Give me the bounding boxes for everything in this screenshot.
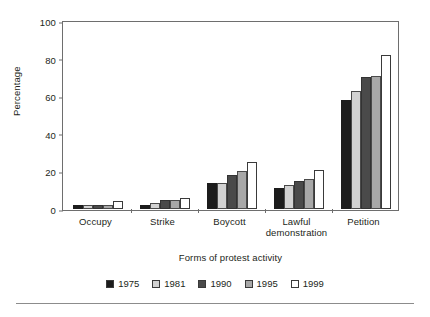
footer-divider	[16, 303, 414, 304]
x-axis-title: Forms of protest activity	[62, 252, 399, 263]
legend-label: 1990	[210, 278, 231, 289]
x-tick-label-line: Strike	[129, 216, 196, 227]
y-axis-title: Percentage	[11, 66, 22, 116]
bar-group	[131, 23, 198, 209]
bar	[351, 91, 361, 209]
bar	[304, 179, 314, 209]
y-tick-label: 20	[45, 167, 63, 178]
bar	[160, 200, 170, 209]
legend-item[interactable]: 1999	[291, 278, 324, 289]
bar	[247, 162, 257, 209]
y-tick-label: 40	[45, 129, 63, 140]
bar	[227, 175, 237, 209]
bar	[150, 203, 160, 209]
legend-swatch-icon	[291, 280, 299, 288]
bar	[207, 183, 217, 209]
x-tick-label-line: Boycott	[196, 216, 263, 227]
bar	[170, 200, 180, 209]
legend-swatch-icon	[198, 280, 206, 288]
bar	[371, 76, 381, 209]
bar	[180, 198, 190, 209]
bar	[73, 205, 83, 209]
bar	[237, 171, 247, 209]
legend-label: 1999	[303, 278, 324, 289]
bar	[103, 205, 113, 209]
x-tick-label-line: demonstration	[263, 227, 330, 238]
bar-groups	[64, 23, 397, 209]
bar	[294, 181, 304, 209]
x-tick-label-line: Petition	[330, 216, 397, 227]
bar	[83, 205, 93, 209]
bar	[274, 188, 284, 209]
bar	[284, 185, 294, 209]
bar-group	[64, 23, 131, 209]
bar	[341, 100, 351, 209]
bar-group	[265, 23, 332, 209]
x-axis-separator-tick	[265, 209, 266, 213]
x-axis-separator-tick	[198, 209, 199, 213]
y-tick-label: 80	[45, 54, 63, 65]
legend-swatch-icon	[245, 280, 253, 288]
x-tick-label-line: Lawful	[263, 216, 330, 227]
x-tick-label-line: Occupy	[62, 216, 129, 227]
legend-label: 1995	[257, 278, 278, 289]
bar	[113, 201, 123, 209]
bar	[93, 205, 103, 209]
legend-swatch-icon	[106, 280, 114, 288]
x-tick-label: Boycott	[196, 216, 263, 227]
bar	[217, 183, 227, 209]
legend-label: 1981	[164, 278, 185, 289]
x-tick-label: Lawfuldemonstration	[263, 216, 330, 238]
y-tick-label: 100	[40, 17, 63, 28]
plot-area: 020406080100	[62, 21, 399, 211]
legend-label: 1975	[118, 278, 139, 289]
legend-swatch-icon	[152, 280, 160, 288]
chart-figure: Percentage 020406080100 OccupyStrikeBoyc…	[0, 0, 430, 317]
x-tick-label: Occupy	[62, 216, 129, 227]
legend-item[interactable]: 1995	[245, 278, 278, 289]
bar	[140, 205, 150, 209]
bar	[314, 170, 324, 209]
legend-item[interactable]: 1990	[198, 278, 231, 289]
x-axis-separator-tick	[131, 209, 132, 213]
bar-group	[198, 23, 265, 209]
y-tick-label: 60	[45, 92, 63, 103]
bar	[381, 55, 391, 209]
legend-item[interactable]: 1981	[152, 278, 185, 289]
x-tick-label: Strike	[129, 216, 196, 227]
x-axis-separator-tick	[332, 209, 333, 213]
bar-group	[332, 23, 399, 209]
bar	[361, 77, 371, 209]
chart-legend: 19751981199019951999	[0, 278, 430, 289]
y-tick-label: 0	[51, 205, 63, 216]
x-tick-label: Petition	[330, 216, 397, 227]
legend-item[interactable]: 1975	[106, 278, 139, 289]
